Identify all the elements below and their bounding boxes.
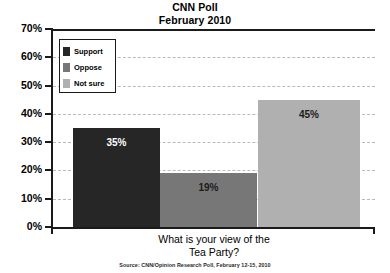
legend-item-label: Not sure xyxy=(74,79,104,88)
legend-swatch-icon xyxy=(63,79,70,88)
legend-item-support[interactable]: Support xyxy=(63,43,115,59)
y-axis-tick xyxy=(45,113,52,115)
legend-item-label: Support xyxy=(74,47,103,56)
bar-support[interactable]: 35% xyxy=(73,128,160,227)
y-axis-tick-label: 10% xyxy=(0,193,42,204)
bar-oppose[interactable]: 19% xyxy=(160,173,257,227)
legend-item-oppose[interactable]: Oppose xyxy=(63,59,115,75)
y-axis-tick xyxy=(45,169,52,171)
legend-item-label: Oppose xyxy=(74,63,102,72)
source-note: Source: CNN/Opinion Research Poll, Febru… xyxy=(0,262,390,269)
bar-value-label: 19% xyxy=(160,182,257,193)
legend-swatch-icon xyxy=(63,47,70,56)
y-axis-tick-label: 50% xyxy=(0,80,42,91)
x-axis-title-line1: What is your view of the xyxy=(158,233,269,245)
y-axis-tick xyxy=(45,141,52,143)
y-axis-tick xyxy=(45,28,52,30)
y-axis-tick-label: 0% xyxy=(0,221,42,232)
y-axis-tick xyxy=(45,56,52,58)
y-axis-tick-label: 20% xyxy=(0,164,42,175)
chart-title-line2: February 2010 xyxy=(0,14,390,27)
plot-top-rule xyxy=(53,29,375,31)
y-axis-tick-label: 30% xyxy=(0,136,42,147)
x-axis-title-line2: Tea Party? xyxy=(53,246,375,259)
y-axis-tick xyxy=(45,226,52,228)
legend-item-not-sure[interactable]: Not sure xyxy=(63,75,115,91)
bar-not-sure[interactable]: 45% xyxy=(258,100,360,227)
y-axis-tick xyxy=(45,85,52,87)
y-axis-tick-label: 70% xyxy=(0,23,42,34)
x-axis-title: What is your view of the Tea Party? xyxy=(53,233,375,258)
page-title: CNN Poll February 2010 xyxy=(0,1,390,26)
legend: SupportOpposeNot sure xyxy=(59,39,116,93)
y-axis-tick-label: 60% xyxy=(0,51,42,62)
bar-value-label: 45% xyxy=(258,109,360,120)
legend-swatch-icon xyxy=(63,63,70,72)
bar-value-label: 35% xyxy=(73,137,160,148)
y-axis-tick-label: 40% xyxy=(0,108,42,119)
y-axis-tick xyxy=(45,198,52,200)
x-axis-line xyxy=(51,227,375,229)
chart-title-line1: CNN Poll xyxy=(172,1,218,13)
